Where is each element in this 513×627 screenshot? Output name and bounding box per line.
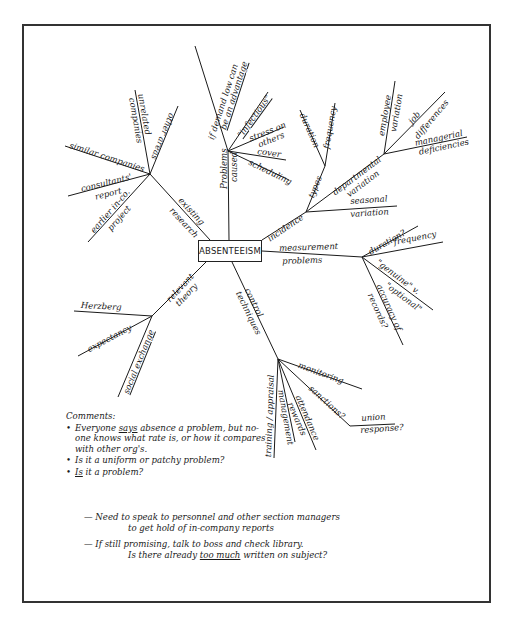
center-node-label: ABSENTEEISM — [199, 246, 261, 256]
note-text: Is there already — [128, 550, 200, 560]
leaf-union-response: union — [361, 412, 386, 423]
note-line: — If still promising, talk to boss and c… — [84, 539, 414, 550]
comment-emphasis: Is — [75, 467, 83, 477]
notes-section: — Need to speak to personnel and other s… — [84, 512, 414, 566]
comment-item: Is it a problem? — [66, 467, 266, 478]
branch-problems-caused-label: Problems — [220, 148, 229, 189]
note-line: to get hold of in-company reports — [84, 523, 414, 534]
branch-measurement-problems-2: problems — [282, 256, 323, 266]
center-node-absenteeism: ABSENTEEISM — [198, 240, 262, 262]
comment-text: it a problem? — [83, 467, 143, 477]
comment-text: Is it a uniform or patchy problem? — [75, 455, 224, 465]
branch-problems-caused-label-2: caused — [230, 152, 239, 182]
comment-item: Is it a uniform or patchy problem? — [66, 455, 266, 466]
note-item: — Need to speak to personnel and other s… — [84, 512, 414, 534]
note-emphasis: too much — [200, 550, 241, 560]
comments-title: Comments: — [66, 411, 266, 422]
comments-section: Comments: Everyone says absence a proble… — [66, 411, 266, 479]
note-item: — If still promising, talk to boss and c… — [84, 539, 414, 561]
comment-item: Everyone says absence a problem, but no-… — [66, 423, 266, 455]
comment-text: Everyone — [75, 423, 119, 433]
comment-emphasis: says — [119, 423, 138, 433]
note-text: written on subject? — [240, 550, 327, 560]
note-line: — Need to speak to personnel and other s… — [84, 512, 414, 523]
note-line: Is there already too much written on sub… — [84, 550, 414, 561]
comments-list: Everyone says absence a problem, but no-… — [66, 423, 266, 478]
